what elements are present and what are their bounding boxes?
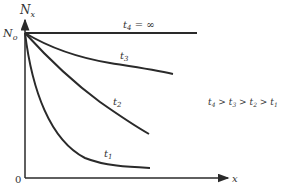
origin-label: 0 [15,174,21,185]
curve-t2 [25,33,149,134]
curve-t1-label: t1 [104,148,113,161]
x-axis-label: x [232,173,238,184]
concentration-profile-diagram: Nx No 0 x t4 = ∞ t3 t2 t1 t4 > t3 > t2 >… [0,0,299,191]
time-inequality: t4 > t3 > t2 > t1 [208,97,278,109]
curve-t3 [25,33,173,74]
n0-label: No [2,27,18,42]
curve-t3-label: t3 [120,50,129,63]
y-axis-label: Nx [19,3,36,19]
curve-t2-label: t2 [113,96,122,109]
curve-t4-label: t4 = ∞ [123,19,155,32]
